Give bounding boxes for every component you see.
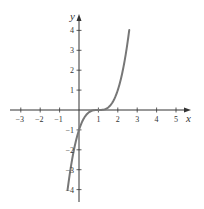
x-tick-label: −3 — [16, 115, 25, 124]
x-tick-label: 5 — [174, 115, 178, 124]
y-tick-label: −3 — [65, 166, 74, 175]
axes — [10, 14, 191, 202]
y-tick-label: 1 — [70, 86, 74, 95]
y-axis-arrow-icon — [77, 14, 82, 21]
y-tick-label: −4 — [65, 186, 74, 195]
x-tick-label: 4 — [155, 115, 159, 124]
x-axis-label: x — [185, 112, 191, 124]
x-tick-label: 3 — [135, 115, 139, 124]
x-tick-label: −2 — [35, 115, 44, 124]
y-tick-label: −1 — [65, 126, 74, 135]
y-axis-label: y — [69, 10, 75, 22]
x-tick-label: −1 — [54, 115, 63, 124]
y-tick-label: −2 — [65, 146, 74, 155]
chart: −3−2−112345−4−3−2−11234xy — [0, 0, 204, 209]
x-tick-label: 2 — [116, 115, 120, 124]
y-tick-label: 3 — [70, 46, 74, 55]
y-tick-label: 4 — [70, 26, 74, 35]
tick-labels: −3−2−112345−4−3−2−11234xy — [16, 10, 191, 195]
y-tick-label: 2 — [70, 66, 74, 75]
x-tick-label: 1 — [96, 115, 100, 124]
